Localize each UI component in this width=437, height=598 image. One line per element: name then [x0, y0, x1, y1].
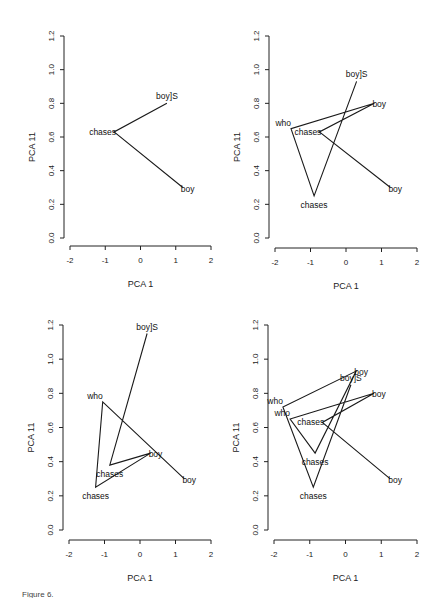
x-axis-title: PCA 1 — [128, 279, 154, 289]
x-tick-label: -1 — [306, 550, 314, 559]
point-label: boy — [181, 184, 195, 194]
y-tick-label: 0.4 — [252, 165, 261, 177]
x-tick-label: -1 — [307, 258, 315, 267]
y-tick-label: 0.8 — [252, 97, 261, 109]
y-tick-label: 0.2 — [252, 198, 261, 210]
y-tick-label: 0.4 — [251, 456, 260, 468]
point-label: chases — [82, 491, 109, 501]
y-tick-label: 0.6 — [251, 421, 260, 433]
x-tick-label: 0 — [344, 258, 349, 267]
point-label: boy]S — [156, 91, 178, 101]
x-tick-label: 0 — [343, 550, 348, 559]
x-tick-label: 0 — [138, 256, 143, 265]
x-tick-label: -1 — [102, 256, 110, 265]
point-label: boy — [372, 99, 386, 109]
y-tick-label: 1.2 — [47, 30, 56, 42]
y-tick-label: 0.2 — [47, 198, 56, 210]
y-tick-label: 0.8 — [46, 387, 55, 399]
y-tick-label: 0.2 — [46, 490, 55, 502]
point-label: boy]S — [136, 322, 158, 332]
y-tick-label: 1.2 — [252, 30, 261, 42]
y-axis-title: PCA 11 — [231, 423, 241, 453]
x-tick-label: -1 — [101, 550, 109, 559]
point-label: who — [86, 391, 103, 401]
point-label: who — [266, 396, 283, 406]
x-tick-label: -2 — [66, 256, 74, 265]
y-tick-label: 0.6 — [252, 131, 261, 143]
point-label: who — [274, 118, 291, 128]
x-tick-label: 2 — [415, 550, 420, 559]
y-tick-label: 0.6 — [47, 131, 56, 143]
y-tick-label: 0.0 — [251, 524, 260, 536]
point-label: boy — [388, 184, 402, 194]
figure-canvas: 0.00.20.40.60.81.01.2PCA 11-2-1012PCA 1b… — [0, 0, 437, 598]
y-tick-label: 1.2 — [46, 319, 55, 331]
y-tick-label: 0.2 — [251, 490, 260, 502]
y-tick-label: 0.4 — [46, 456, 55, 468]
point-label: chases — [300, 491, 327, 501]
x-tick-label: 2 — [209, 550, 214, 559]
x-axis-title: PCA 1 — [333, 281, 359, 291]
y-tick-label: 0.0 — [47, 232, 56, 244]
y-tick-label: 0.6 — [46, 421, 55, 433]
x-tick-label: 1 — [379, 258, 384, 267]
point-label: chases — [302, 457, 329, 467]
x-tick-label: -2 — [65, 550, 73, 559]
point-label: boy — [372, 389, 386, 399]
y-axis-title: PCA 11 — [26, 423, 36, 453]
point-label: boy — [388, 475, 402, 485]
y-tick-label: 0.8 — [251, 387, 260, 399]
point-label: chases — [294, 127, 321, 137]
y-tick-label: 1.0 — [251, 353, 260, 365]
x-tick-label: 1 — [174, 256, 179, 265]
y-tick-label: 1.2 — [251, 319, 260, 331]
x-tick-label: -2 — [271, 258, 279, 267]
x-tick-label: 1 — [173, 550, 178, 559]
y-tick-label: 0.8 — [47, 97, 56, 109]
point-label: chases — [96, 469, 123, 479]
point-label: boy — [182, 475, 196, 485]
y-axis-title: PCA 11 — [232, 132, 242, 162]
point-label: boy — [149, 449, 163, 459]
y-tick-label: 0.0 — [46, 524, 55, 536]
y-axis-title: PCA 11 — [27, 132, 37, 162]
x-axis-title: PCA 1 — [127, 573, 153, 583]
y-tick-label: 1.0 — [252, 64, 261, 76]
trajectory-line — [114, 103, 183, 187]
x-tick-label: 0 — [138, 550, 143, 559]
x-axis-title: PCA 1 — [333, 573, 359, 583]
y-tick-label: 1.0 — [46, 353, 55, 365]
x-tick-label: 2 — [415, 258, 420, 267]
point-label: boy]S — [340, 373, 362, 383]
x-tick-label: 2 — [209, 256, 214, 265]
point-label: boy]S — [346, 69, 368, 79]
point-label: chases — [301, 200, 328, 210]
trajectory-line — [96, 334, 185, 488]
point-label: chases — [89, 127, 116, 137]
figure-caption: Figure 6. — [22, 590, 54, 598]
point-label: who — [273, 408, 290, 418]
y-tick-label: 1.0 — [47, 64, 56, 76]
x-tick-label: 1 — [379, 550, 384, 559]
y-tick-label: 0.4 — [47, 165, 56, 177]
x-tick-label: -2 — [270, 550, 278, 559]
point-label: chases — [297, 417, 324, 427]
y-tick-label: 0.0 — [252, 232, 261, 244]
